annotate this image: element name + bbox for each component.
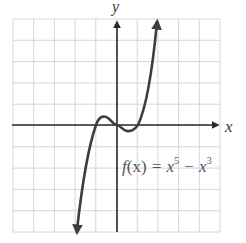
x-axis-label: x (224, 117, 233, 136)
curve-arrow-down (77, 224, 78, 233)
y-axis-label: y (110, 0, 120, 16)
function-label: f(x) = x5 − x3 (122, 155, 212, 176)
graph-svg: y x f(x) = x5 − x3 (0, 0, 246, 243)
graph-figure: y x f(x) = x5 − x3 (0, 0, 246, 243)
curve-arrow-up (157, 21, 158, 30)
